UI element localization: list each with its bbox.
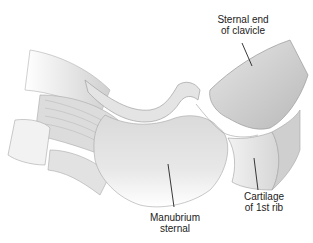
cartilage-of-1st-rib [228,132,279,190]
left-rib-cartilage [8,119,50,165]
sternal-end-of-clavicle [210,40,308,129]
manubrium [94,115,228,207]
label-sternal-end-of-clavicle: Sternal end of clavicle [210,14,276,36]
label-cartilage-of-1st-rib: Cartilage of 1st rib [236,191,292,213]
label-manubrium-sternal: Manubrium sternal [145,212,205,234]
diagram-canvas: Sternal end of clavicle Cartilage of 1st… [0,0,313,243]
